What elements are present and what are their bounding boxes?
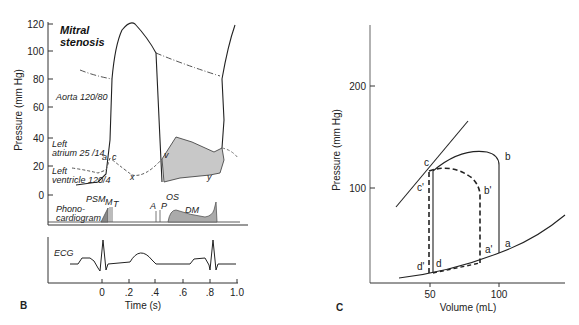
x-tick-label: .4 bbox=[151, 287, 160, 298]
panel-b-title: Mitral bbox=[60, 24, 90, 36]
label-phonocardiogram: cardiogram bbox=[56, 213, 102, 223]
y-tick-label: 100 bbox=[27, 46, 44, 57]
point-b: b bbox=[505, 151, 511, 162]
label-m: M bbox=[105, 197, 113, 207]
panel-b-title: stenosis bbox=[60, 36, 105, 48]
panel-c-y-axis-label: Pressure (mm Hg) bbox=[331, 109, 342, 191]
diastolic-gradient-area bbox=[162, 137, 224, 182]
figure-canvas: 120 100 80 60 40 20 0 Pressure (mm Hg) M… bbox=[0, 0, 579, 325]
label-p2: P bbox=[161, 201, 167, 211]
x-tick-label: .6 bbox=[179, 287, 188, 298]
y-tick-label: 80 bbox=[33, 74, 45, 85]
x-tick-label: .2 bbox=[125, 287, 134, 298]
panel-label-c: C bbox=[336, 302, 343, 313]
label-a2: A bbox=[149, 201, 156, 211]
label-t: T bbox=[113, 199, 120, 209]
label-opening-snap: OS bbox=[166, 192, 179, 202]
ecg-trace bbox=[70, 240, 236, 271]
y-tick-label: 0 bbox=[38, 190, 44, 201]
label-aorta: Aorta 120/80 bbox=[55, 92, 108, 102]
y-tick-label: 20 bbox=[33, 161, 45, 172]
point-a-prime: a' bbox=[485, 244, 493, 255]
y-tick-label: 120 bbox=[27, 19, 44, 30]
panel-b-y-axis-label: Pressure (mm Hg) bbox=[13, 69, 24, 151]
label-ecg: ECG bbox=[54, 248, 74, 258]
label-y-descent: y bbox=[206, 172, 212, 182]
panel-b-x-axis-label: Time (s) bbox=[125, 300, 161, 311]
x-tick-label: 50 bbox=[424, 289, 436, 300]
panel-c-x-axis-label: Volume (mL) bbox=[440, 302, 497, 313]
panel-b-x-ticks bbox=[102, 279, 237, 283]
x-tick-label: 100 bbox=[491, 289, 508, 300]
left-ventricle-curve bbox=[222, 25, 235, 148]
x-tick-label: 0 bbox=[99, 287, 105, 298]
aorta-curve bbox=[156, 53, 220, 76]
point-a: a bbox=[505, 238, 511, 249]
label-left-atrium: atrium 25 /14 bbox=[52, 148, 105, 158]
panel-c: 200 100 Pressure (mm Hg) 50 100 Volume (… bbox=[331, 25, 565, 313]
left-atrium-curve bbox=[222, 148, 238, 158]
point-d-prime: d' bbox=[417, 261, 425, 272]
y-tick-label: 60 bbox=[33, 102, 45, 113]
y-tick-label: 200 bbox=[349, 81, 366, 92]
y-tick-label: 100 bbox=[349, 183, 366, 194]
espvr-line bbox=[396, 121, 468, 207]
point-c-prime: c' bbox=[417, 182, 424, 193]
label-left-ventricle: ventricle 120/4 bbox=[52, 175, 111, 185]
panel-b-y-ticks: 120 100 80 60 40 20 0 bbox=[27, 19, 53, 201]
panel-label-b: B bbox=[20, 300, 27, 311]
x-tick-label: .8 bbox=[206, 287, 215, 298]
point-d: d bbox=[436, 258, 442, 269]
left-atrium-curve bbox=[72, 158, 162, 175]
x-tick-label: 1.0 bbox=[230, 287, 244, 298]
label-c-wave: c bbox=[112, 152, 117, 162]
y-tick-label: 40 bbox=[33, 133, 45, 144]
label-x-descent: x bbox=[129, 172, 135, 182]
aorta-curve bbox=[80, 70, 112, 79]
point-c: c bbox=[424, 157, 429, 168]
point-b-prime: b' bbox=[484, 185, 492, 196]
panel-b: 120 100 80 60 40 20 0 Pressure (mm Hg) M… bbox=[13, 19, 248, 311]
label-psm: PSM bbox=[86, 194, 106, 204]
label-v-wave: v bbox=[164, 150, 169, 160]
label-a-wave: a bbox=[102, 152, 107, 162]
